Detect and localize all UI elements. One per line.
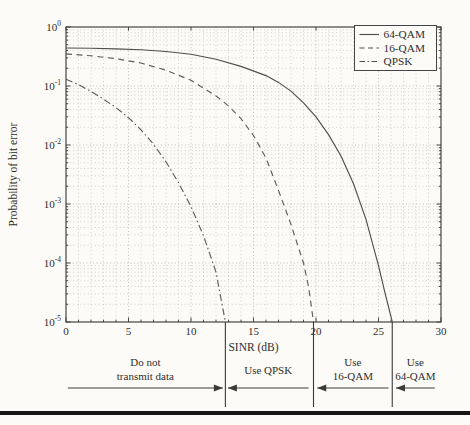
ber-vs-sinr-figure: 64-QAM16-QAMQPSK05101520253010010-110-21…	[0, 0, 470, 425]
x-axis-label: SINR (dB)	[228, 341, 278, 354]
x-tick-label: 20	[311, 325, 323, 337]
legend: 64-QAM16-QAMQPSK	[355, 26, 437, 71]
annotation-label-line1: Use	[344, 356, 361, 368]
x-tick-label: 30	[436, 325, 448, 337]
annotation-label-line1: Do not	[130, 356, 160, 368]
annotation-label-line2: 64-QAM	[395, 370, 436, 382]
bottom-rule	[0, 411, 470, 415]
ber-chart: 64-QAM16-QAMQPSK05101520253010010-110-21…	[0, 0, 470, 411]
legend-label-16-qam: 16-QAM	[384, 42, 425, 54]
x-tick-label: 5	[126, 325, 132, 337]
legend-label-64-qam: 64-QAM	[384, 28, 425, 40]
y-axis-label: Probability of bit error	[7, 122, 20, 226]
annotation-label-line1: Use	[407, 356, 424, 368]
x-tick-label: 0	[63, 325, 69, 337]
x-tick-label: 25	[373, 325, 385, 337]
legend-label-qpsk: QPSK	[384, 55, 414, 67]
x-tick-label: 10	[186, 325, 198, 337]
annotation-label-line2: transmit data	[117, 370, 174, 382]
x-tick-label: 15	[248, 325, 260, 337]
annotation-label-line2: 16-QAM	[333, 370, 374, 382]
annotation-label: Use QPSK	[244, 364, 292, 376]
